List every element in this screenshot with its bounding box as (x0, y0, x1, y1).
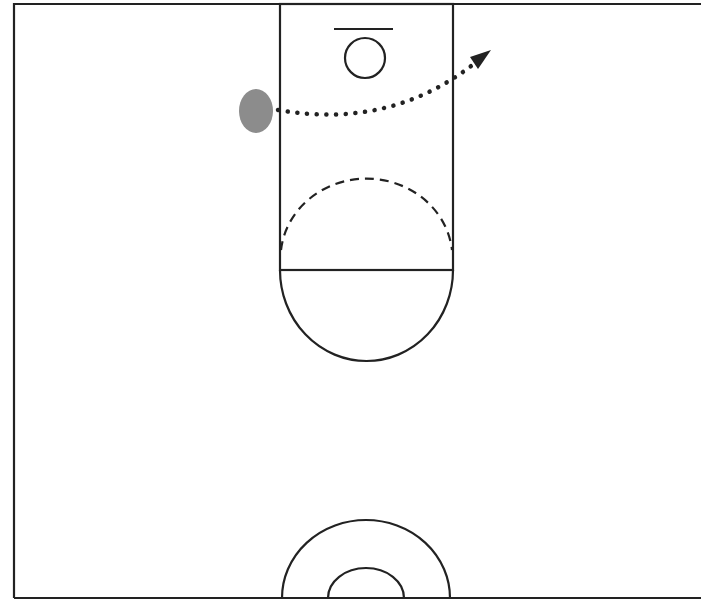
court-lines (14, 4, 701, 598)
center-circle-inner (328, 568, 404, 598)
free-throw-circle-bottom (280, 270, 453, 361)
rim (345, 38, 385, 78)
court-diagram (0, 0, 701, 600)
free-throw-circle-top (281, 179, 452, 250)
movement-path (278, 63, 475, 115)
player-marker (239, 89, 273, 133)
court-boundary (14, 4, 701, 598)
arrow-head-icon (470, 50, 491, 69)
center-circle-outer (282, 520, 450, 598)
free-throw-lane (280, 4, 453, 270)
